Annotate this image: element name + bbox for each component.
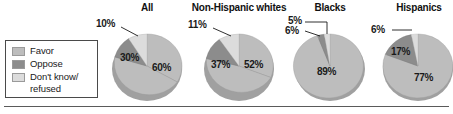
pie-title-hispanics: Hispanics (392, 2, 446, 13)
legend-label-dont-know: Don't know/ refused (30, 71, 78, 94)
pie-title-blacks: Blacks (306, 2, 354, 13)
label-whites-favor: 52% (244, 59, 263, 70)
pie-blacks-leader-oppose (305, 31, 320, 36)
pie-all (112, 27, 182, 101)
legend-swatch-favor (12, 47, 25, 56)
legend-label-favor: Favor (30, 45, 54, 57)
label-all-oppose: 30% (120, 52, 139, 63)
label-whites-dk: 11% (188, 19, 207, 30)
legend-item-oppose: Oppose (12, 58, 63, 70)
footer-rule (4, 106, 449, 107)
legend: Favor Oppose Don't know/ refused (5, 40, 98, 98)
label-blacks-favor: 89% (317, 66, 336, 77)
label-hispanics-oppose: 17% (391, 46, 410, 57)
label-blacks-oppose: 6% (285, 25, 299, 36)
legend-item-favor: Favor (12, 45, 54, 57)
pie-title-all: All (127, 2, 167, 13)
label-hispanics-favor: 77% (414, 72, 433, 83)
label-whites-oppose: 37% (211, 59, 230, 70)
legend-item-dont-know: Don't know/ refused (12, 71, 78, 94)
pie-hispanics (383, 30, 453, 101)
pie-blacks (293, 22, 365, 101)
pie-whites-leader-dk (213, 28, 231, 36)
pie-all-leader-dk (121, 27, 138, 36)
label-all-favor: 60% (152, 62, 171, 73)
legend-label-oppose: Oppose (30, 58, 63, 70)
legend-swatch-oppose (12, 60, 25, 69)
label-all-dk: 10% (96, 18, 115, 29)
label-hispanics-dk: 6% (371, 24, 385, 35)
legend-swatch-dont-know (12, 73, 25, 82)
pie-title-whites: Non-Hispanic whites (179, 2, 299, 13)
label-blacks-dk: 5% (288, 15, 302, 26)
